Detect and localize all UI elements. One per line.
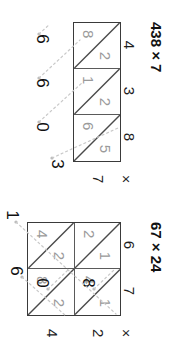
cell-tens-digit: 2 [52,252,67,260]
problem-1-answer-digit-2: 6 [34,78,51,87]
problem-2-top-digit-0: 6 [122,241,137,249]
lattice-cell-r0c1: 2 1 [74,69,120,115]
lattice-cell-r0c0: 2 8 [74,23,120,69]
lattice-cell-r1c0: 2 4 [28,223,74,269]
problem-1-times-symbol: × [119,175,133,183]
problem-2-side-digit-1: 4 [45,329,60,337]
problem-2-answer-digit-3: 8 [80,278,97,287]
problem-2-answer-digit-2: 0 [34,278,51,287]
problem-1-top-digit-2: 8 [122,133,137,141]
cell-tens-digit: 2 [98,98,113,106]
lattice-row: 2 8 2 1 5 6 [74,23,120,161]
cell-ones-digit: 6 [81,122,96,130]
cell-tens-digit: 2 [98,52,113,60]
cell-tens-digit: 2 [52,299,67,307]
cell-tens-digit: 1 [98,252,113,260]
cell-ones-digit: 4 [35,230,50,238]
problem-2-times-symbol: × [119,329,133,337]
lattice-row: 2 4 2 8 [28,223,74,315]
lattice-cell-r0c1: 1 4 [74,269,120,315]
problem-1-answer-digit-1: 0 [34,122,51,131]
lattice-row: 1 2 1 4 [74,223,120,315]
lattice-cell-r1c1: 2 8 [28,269,74,315]
problem-2-answer-digit-0: 1 [4,210,21,219]
problem-1-top-digit-1: 3 [122,87,137,95]
lattice-cell-r0c2: 5 6 [74,115,120,161]
cell-ones-digit: 8 [81,30,96,38]
problem-1-lattice-grid: 2 8 2 1 5 6 [73,22,121,162]
problem-2-title: 67 × 24 [149,222,164,272]
cell-tens-digit: 1 [98,299,113,307]
cell-ones-digit: 1 [81,76,96,84]
lattice-cell-r0c0: 1 2 [74,223,120,269]
problem-1-answer-digit-3: 6 [34,34,51,43]
problem-2-top-digit-1: 7 [122,287,137,295]
problem-1-top-digit-0: 4 [122,41,137,49]
problem-1-answer-digit-0: 3 [49,159,66,168]
problem-1-side-digit-0: 7 [91,175,106,183]
problem-1-title: 438 × 7 [149,22,164,72]
cell-ones-digit: 2 [82,230,97,238]
problem-2-side-digit-0: 2 [91,329,106,337]
problem-2-answer-digit-1: 6 [8,266,25,275]
problem-2-lattice-grid: 1 2 1 4 [27,222,121,316]
cell-tens-digit: 5 [98,145,113,153]
